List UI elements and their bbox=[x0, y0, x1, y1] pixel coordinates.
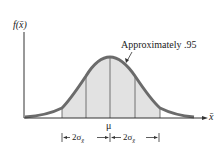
sigma-subscript: x̄ bbox=[81, 138, 84, 144]
arrow-left-icon bbox=[63, 136, 67, 139]
sigma-subscript: x̄ bbox=[132, 138, 135, 144]
normal-distribution-figure: f(x̄) x̄ Approximately .95 μ 2σx̄ 2σx̄ bbox=[0, 0, 221, 153]
x-axis-label: x̄ bbox=[209, 111, 213, 122]
y-axis-label: f(x̄) bbox=[13, 19, 27, 30]
arrow-right-icon bbox=[154, 136, 158, 139]
x-axis-arrow-icon bbox=[202, 116, 208, 120]
interval-sigma: 2σ bbox=[72, 132, 81, 142]
interval-sigma: 2σ bbox=[123, 132, 132, 142]
right-interval-label: 2σx̄ bbox=[123, 132, 135, 144]
arrow-right-icon bbox=[105, 136, 109, 139]
left-interval-label: 2σx̄ bbox=[72, 132, 84, 144]
mean-label: μ bbox=[106, 120, 111, 131]
annotation-label: Approximately .95 bbox=[121, 39, 197, 50]
arrow-left-icon bbox=[111, 136, 115, 139]
